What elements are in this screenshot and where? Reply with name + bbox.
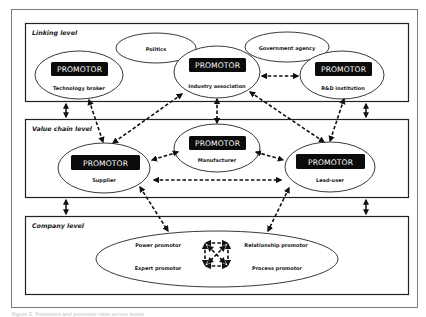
supplier-label: Supplier	[92, 177, 116, 184]
promotor-text: PROMOTOR	[57, 65, 103, 74]
government-agency-label: Government agency	[259, 45, 316, 52]
node-company-promotors: Power promotor Relationship promotor Exp…	[96, 231, 338, 287]
promotor-text: PROMOTOR	[308, 158, 354, 167]
node-lead-user: PROMOTOR Lead-user	[285, 142, 375, 192]
node-supplier: PROMOTOR Supplier	[58, 143, 150, 193]
process-promotor-label: Process promotor	[252, 265, 303, 272]
manufacturer-label: Manufacturer	[198, 157, 237, 163]
politics-label: Politics	[146, 46, 167, 52]
promotor-text: PROMOTOR	[195, 61, 241, 70]
linking-level-label: Linking level	[32, 29, 78, 37]
node-technology-broker: PROMOTOR Technology broker	[35, 51, 123, 99]
node-manufacturer: PROMOTOR Manufacturer	[174, 124, 260, 172]
node-industry-association: PROMOTOR Industry association	[174, 46, 260, 98]
promotor-text: PROMOTOR	[83, 159, 129, 168]
industry-association-label: Industry association	[188, 83, 246, 90]
expert-promotor-label: Expert promotor	[135, 265, 182, 272]
promotor-network-diagram: Linking level Value chain level Company …	[0, 0, 426, 317]
promotor-text: PROMOTOR	[321, 65, 367, 74]
company-level-label: Company level	[32, 222, 85, 230]
figure-caption: Figure 2. Promotors and promotor roles a…	[12, 311, 144, 317]
technology-broker-label: Technology broker	[53, 85, 105, 92]
value-chain-level-label: Value chain level	[32, 125, 93, 132]
power-promotor-label: Power promotor	[135, 242, 181, 249]
node-rd-institution: PROMOTOR R&D institution	[300, 51, 384, 99]
relationship-promotor-label: Relationship promotor	[244, 242, 308, 249]
rd-institution-label: R&D institution	[321, 85, 365, 91]
lead-user-label: Lead-user	[316, 177, 345, 183]
promotor-text: PROMOTOR	[195, 139, 241, 148]
